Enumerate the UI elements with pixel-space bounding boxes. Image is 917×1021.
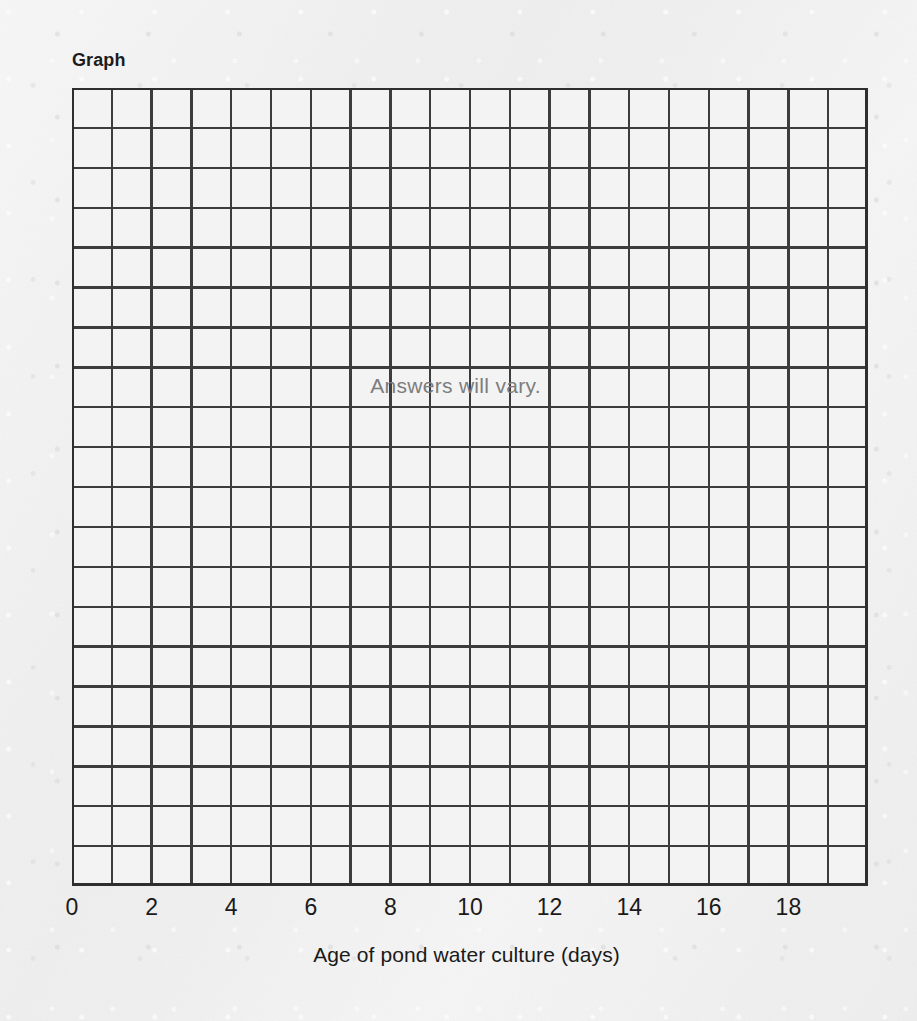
x-axis-tick-label: 8	[355, 893, 425, 921]
x-axis-title-text: Age of pond water culture (days)	[313, 943, 620, 966]
overlay-note: Answers will vary.	[0, 374, 917, 398]
x-axis-tick-label: 0	[37, 893, 107, 921]
x-axis-tick-label: 16	[674, 893, 744, 921]
plot-grid[interactable]	[72, 88, 868, 886]
grid-svg	[72, 88, 868, 886]
graph-figure: Graph Answers will vary. 024681012141618…	[0, 0, 917, 1021]
x-axis-tick-label: 12	[515, 893, 585, 921]
x-axis-tick-label: 14	[594, 893, 664, 921]
page-title: Graph	[72, 50, 126, 71]
x-axis-tick-label: 10	[435, 893, 505, 921]
overlay-note-text: Answers will vary.	[370, 374, 541, 397]
x-axis-tick-labels: 024681012141618	[0, 893, 917, 927]
x-axis-tick-label: 2	[117, 893, 187, 921]
grid-lines	[72, 88, 868, 886]
x-axis-tick-label: 18	[753, 893, 823, 921]
x-axis-tick-label: 6	[276, 893, 346, 921]
x-axis-tick-label: 4	[196, 893, 266, 921]
x-axis-title: Age of pond water culture (days)	[0, 943, 917, 967]
